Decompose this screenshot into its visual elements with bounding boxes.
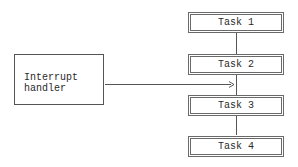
connector-task3-task4 — [236, 116, 237, 135]
handler-label-line2: handler — [24, 83, 103, 94]
arrowhead-icon — [228, 81, 236, 88]
task-1-label: Task 1 — [218, 17, 254, 28]
connector-task2-task3 — [236, 75, 237, 95]
connector-task1-task2 — [236, 30, 237, 54]
handler-label-line1: Interrupt — [24, 72, 103, 83]
task-2-label: Task 2 — [218, 59, 254, 70]
task-3-label: Task 3 — [218, 100, 254, 111]
task-2-box: Task 2 — [188, 54, 284, 75]
interrupt-handler-box: Interrupt handler — [14, 54, 104, 105]
task-4-label: Task 4 — [218, 141, 254, 152]
task-3-box: Task 3 — [188, 95, 284, 116]
interrupt-arrow-line — [105, 84, 231, 85]
task-1-box: Task 1 — [188, 12, 284, 33]
task-4-box: Task 4 — [188, 136, 284, 157]
